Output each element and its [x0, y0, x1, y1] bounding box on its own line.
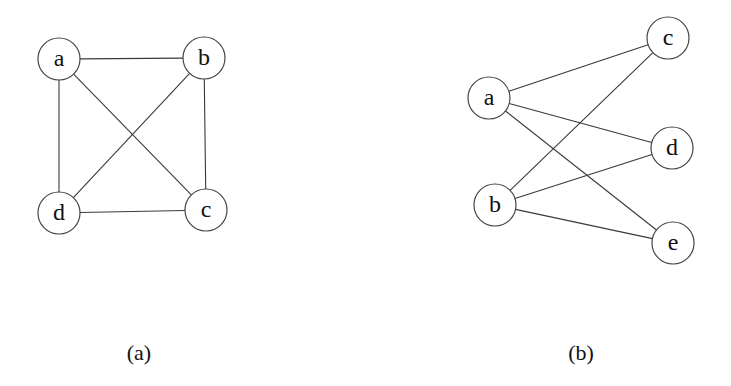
node-label: d	[666, 134, 678, 160]
node-a: a	[468, 77, 510, 119]
edge-b-c	[204, 79, 205, 189]
node-layer: abcde	[468, 17, 694, 264]
edge-b-d	[515, 154, 652, 198]
edge-d-c	[80, 210, 185, 212]
node-label: b	[198, 44, 210, 70]
node-c: c	[647, 17, 689, 59]
node-label: a	[54, 45, 65, 71]
node-b: b	[183, 37, 225, 79]
node-a: a	[38, 38, 80, 80]
edge-layer	[505, 45, 656, 239]
node-label: c	[663, 24, 674, 50]
node-label: c	[201, 196, 212, 222]
subfigure-a-k4-graph: abcd (a)	[38, 37, 227, 365]
edge-a-c	[509, 45, 648, 92]
edge-layer	[59, 58, 206, 212]
subfigure-b-k23-graph: abcde (b)	[468, 17, 694, 365]
edge-b-e	[516, 209, 653, 238]
node-c: c	[185, 189, 227, 231]
node-d: d	[651, 127, 693, 169]
node-label: b	[489, 191, 501, 217]
caption-b: (b)	[568, 340, 594, 365]
node-e: e	[652, 222, 694, 264]
node-label: a	[484, 84, 495, 110]
node-layer: abcd	[38, 37, 227, 234]
caption-a: (a)	[127, 340, 151, 365]
edge-b-c	[510, 53, 653, 191]
edge-a-b	[80, 58, 183, 59]
node-label: d	[53, 199, 65, 225]
graph-figure: abcd (a) abcde (b)	[0, 0, 731, 386]
node-b: b	[474, 184, 516, 226]
node-label: e	[668, 229, 679, 255]
node-d: d	[38, 192, 80, 234]
